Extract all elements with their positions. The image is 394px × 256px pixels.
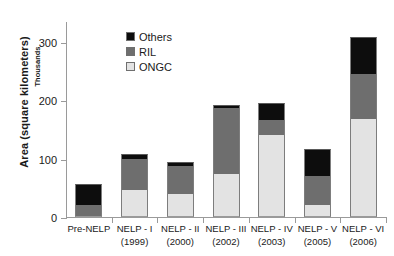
bar-segment-ril[interactable] <box>258 120 285 136</box>
bar-segment-ril[interactable] <box>121 159 148 189</box>
x-axis-label-year: (2006) <box>330 235 394 248</box>
bar-segment-ril[interactable] <box>213 108 240 174</box>
stacked-bar[interactable] <box>304 149 331 217</box>
bar-segment-ongc[interactable] <box>167 194 194 217</box>
stacked-bar[interactable] <box>350 37 377 217</box>
x-axis-label-name: NELP - VI <box>342 223 384 234</box>
legend-item-others[interactable]: Others <box>126 29 172 44</box>
bar-segment-others[interactable] <box>258 103 285 119</box>
legend-item-ongc[interactable]: ONGC <box>126 59 172 74</box>
y-axis-tick-label: 0 <box>23 212 57 224</box>
bar-segment-ongc[interactable] <box>121 190 148 217</box>
bar-segment-ongc[interactable] <box>350 119 377 217</box>
y-axis-tick-label: 200 <box>23 95 57 107</box>
plot-area: 0100200300 <box>66 22 386 218</box>
x-axis-line <box>66 217 386 218</box>
y-axis-tick-label: 300 <box>23 37 57 49</box>
stacked-bar[interactable] <box>121 154 148 217</box>
x-axis-label: NELP - VI(2006) <box>330 222 394 248</box>
stacked-bar-chart: Area (square kilometers) Thousands 01002… <box>0 0 394 256</box>
chart-legend: OthersRILONGC <box>126 29 172 74</box>
bar-segment-ril[interactable] <box>350 74 377 119</box>
y-axis-line <box>66 22 67 218</box>
bar-segment-ongc[interactable] <box>258 135 285 217</box>
bar-segment-ongc[interactable] <box>213 174 240 217</box>
legend-item-ril[interactable]: RIL <box>126 44 172 59</box>
y-axis-tick <box>61 218 67 219</box>
legend-swatch-icon <box>126 47 135 56</box>
legend-swatch-icon <box>126 32 135 41</box>
y-axis-tick <box>61 160 67 161</box>
y-axis-tick-label: 100 <box>23 154 57 166</box>
y-axis-tick <box>61 43 67 44</box>
legend-item-label: Others <box>139 31 172 43</box>
legend-item-label: ONGC <box>139 61 172 73</box>
bar-segment-ril[interactable] <box>304 176 331 205</box>
legend-item-label: RIL <box>139 46 156 58</box>
bar-segment-ongc[interactable] <box>304 205 331 217</box>
bar-segment-others[interactable] <box>350 37 377 74</box>
bar-segment-others[interactable] <box>304 149 331 176</box>
bar-segment-ril[interactable] <box>167 166 194 195</box>
bar-segment-others[interactable] <box>75 184 102 205</box>
bar-segment-ril[interactable] <box>75 205 102 217</box>
stacked-bar[interactable] <box>258 103 285 217</box>
legend-swatch-icon <box>126 62 135 71</box>
stacked-bar[interactable] <box>213 105 240 217</box>
stacked-bar[interactable] <box>75 184 102 217</box>
y-axis-tick <box>61 101 67 102</box>
stacked-bar[interactable] <box>167 162 194 217</box>
